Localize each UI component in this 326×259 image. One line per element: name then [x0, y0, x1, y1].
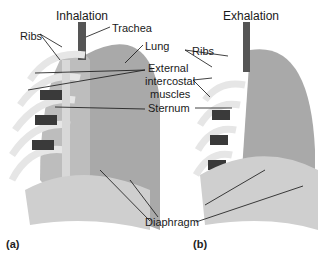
lung-label: Lung [145, 40, 169, 52]
external-intercostal-label-line3: muscles [150, 88, 190, 100]
exhalation-title: Exhalation [223, 10, 279, 22]
diaphragm-label: Diaphragm [145, 216, 199, 228]
sternum-label: Sternum [148, 102, 190, 114]
external-intercostal-label-line2: intercostal [145, 75, 195, 87]
external-intercostal-label-line1: External [148, 62, 188, 74]
panel-a-drawing [12, 22, 160, 230]
trachea-label: Trachea [112, 22, 152, 34]
panel-a-tag: (a) [6, 238, 19, 250]
inhalation-title: Inhalation [56, 10, 108, 22]
panel-b-tag: (b) [193, 238, 207, 250]
ribs-label-b: Ribs [192, 45, 214, 57]
panel-b-drawing [196, 22, 318, 230]
ribs-label-a: Ribs [20, 30, 42, 42]
